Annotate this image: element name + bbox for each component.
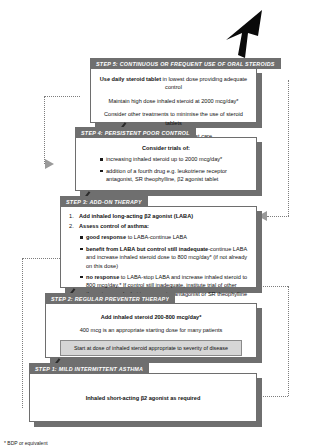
step-4-header: STEP 4: PERSISTENT POOR CONTROL <box>75 127 191 138</box>
stepdown-rail-right-upper <box>288 80 289 216</box>
step-3-sub-bullet-1-rest: to LABA-continue LABA <box>126 234 187 240</box>
stepdown-rail-connector-a <box>267 216 289 217</box>
step-5-line-1-rest: in lowest dose providing adequate contro… <box>161 76 247 90</box>
step-2-body: Add inhaled steroid 200-800 mcg/day* 400… <box>46 304 256 360</box>
stepup-rail-connector-b <box>22 258 62 259</box>
step-5-box[interactable]: STEP 5: CONTINUOUS OR FREQUENT USE OF OR… <box>90 68 257 123</box>
step-3-item-2: Assess control of asthma: good response … <box>79 222 249 298</box>
step-2-highlight-box[interactable]: Start at dose of inhaled steroid appropr… <box>60 340 242 356</box>
step-3-body: Add inhaled long-acting β2 agonist (LABA… <box>61 207 256 304</box>
step-1-line-1-bold: Inhaled short-acting β2 agonist as requi… <box>86 395 201 401</box>
step-4-box[interactable]: STEP 4: PERSISTENT POOR CONTROL Consider… <box>75 137 257 191</box>
footnote: * BDP or equivalent <box>4 440 48 446</box>
step-3-item-2-text: Assess control of asthma: <box>79 223 149 229</box>
stepdown-arrow-into-step3 <box>258 211 267 221</box>
step-3-sub-bullets: good response to LABA-continue LABA bene… <box>79 233 249 297</box>
step-3-sub-bullet-2-bold: benefit from LABA but control still inad… <box>86 246 208 252</box>
step-2-line-1-bold: Add inhaled steroid 200-800 mcg/day* <box>101 314 202 320</box>
step-5-line-1-bold: Use daily steroid tablet <box>100 76 161 82</box>
step-4-bullet-1: increasing inhaled steroid up to 2000 mc… <box>106 155 248 163</box>
step-3-header: STEP 3: ADD-ON THERAPY <box>60 196 143 207</box>
step-5-line-1: Use daily steroid tablet in lowest dose … <box>99 75 248 92</box>
step-1-box[interactable]: STEP 1: MILD INTERMITTENT ASTHMA Inhaled… <box>29 373 257 422</box>
step-4-body: Consider trials of: increasing inhaled s… <box>76 138 256 191</box>
stepup-rail-connector-a <box>44 96 80 97</box>
step-2-box[interactable]: STEP 2: REGULAR PREVENTER THERAPY Add in… <box>45 303 257 358</box>
step-4-bullet-list: increasing inhaled steroid up to 2000 mc… <box>84 155 248 183</box>
step-5-header: STEP 5: CONTINUOUS OR FREQUENT USE OF OR… <box>90 58 276 69</box>
step-3-sub-bullet-2: benefit from LABA but control still inad… <box>86 245 249 270</box>
stepup-rail-left-upper <box>44 96 45 164</box>
step-3-sub-bullet-1-bold: good response <box>86 234 126 240</box>
stepdown-rail-right-lower <box>288 286 289 396</box>
step-4-intro-text: Consider trials of: <box>142 145 190 151</box>
stepup-arrow-into-step4 <box>45 159 54 169</box>
step-4-bullet-2: addition of a fourth drug e.g. leukotrie… <box>106 167 248 183</box>
step-2-line-1: Add inhaled steroid 200-800 mcg/day* <box>54 313 248 321</box>
asthma-stepwise-chart: STEP 5: CONTINUOUS OR FREQUENT USE OF OR… <box>0 0 314 448</box>
step-1-header: STEP 1: MILD INTERMITTENT ASTHMA <box>29 363 144 374</box>
stepup-rail-left-lower <box>22 258 23 408</box>
step-1-line-1: Inhaled short-acting β2 agonist as requi… <box>38 394 248 402</box>
step-2-header: STEP 2: REGULAR PREVENTER THERAPY <box>45 293 170 304</box>
step-3-sub-bullet-1: good response to LABA-continue LABA <box>86 233 249 241</box>
step-4-intro: Consider trials of: <box>84 144 248 152</box>
stepdown-rail-connector-c <box>260 396 288 397</box>
step-5-line-2: Maintain high dose inhaled steroid at 20… <box>99 97 248 105</box>
step-3-item-1-text: Add inhaled long-acting β2 agonist (LABA… <box>79 213 193 219</box>
step-1-body: Inhaled short-acting β2 agonist as requi… <box>30 388 256 411</box>
step-3-numbered-list: Add inhaled long-acting β2 agonist (LABA… <box>68 212 249 298</box>
step-3-sub-bullet-3-bold: no response <box>86 274 119 280</box>
step-2-line-2: 400 mcg is an appropriate starting dose … <box>54 326 248 334</box>
mouse-pointer-icon <box>218 6 280 64</box>
step-3-box[interactable]: STEP 3: ADD-ON THERAPY Add inhaled long-… <box>60 206 257 288</box>
step-3-item-1: Add inhaled long-acting β2 agonist (LABA… <box>79 212 249 220</box>
